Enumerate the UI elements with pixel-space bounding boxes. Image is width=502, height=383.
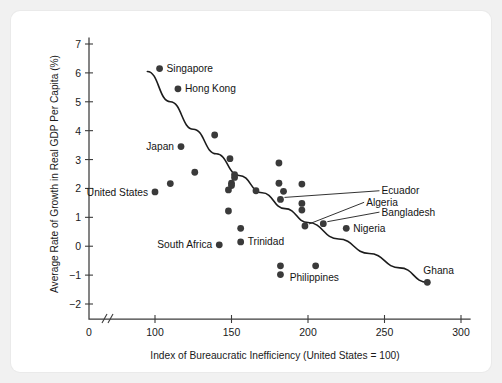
point-label: Philippines [290,272,339,283]
data-point-ecuador [277,196,284,203]
y-tick-label: 5 [75,96,81,108]
chart-canvas: 76543210−1−20100150200250300 SingaporeHo… [11,11,491,372]
data-point [276,160,283,167]
y-tick-label: 2 [75,182,81,194]
data-point [277,262,284,269]
point-label: South Africa [157,239,212,250]
figure-card: 76543210−1−20100150200250300 SingaporeHo… [11,11,491,372]
point-label: Japan [146,141,174,152]
point-label: Singapore [167,63,214,74]
x-tick-label: 100 [146,326,164,338]
x-axis-title: Index of Bureaucratic Inefficiency (Unit… [150,350,399,361]
data-point-hong-kong [175,85,182,92]
point-label: United States [87,187,148,198]
y-tick-label: 6 [75,67,81,79]
data-point-trinidad [237,238,244,245]
y-tick-label: 1 [75,211,81,223]
data-point [237,225,244,232]
data-point [191,169,198,176]
data-point [298,200,305,207]
x-tick-label: 0 [86,326,92,338]
x-tick-label: 200 [299,326,317,338]
leader-line [309,202,364,224]
trend-curve [147,71,427,282]
y-axis-title: Average Rate of Growth in Real GDP Per C… [49,55,60,293]
data-point-algeria [302,223,309,230]
y-tick-label: −2 [69,298,81,310]
y-tick-label: 7 [75,38,81,50]
data-point-nigeria [343,225,350,232]
point-label: Hong Kong [185,83,236,94]
point-labels: SingaporeHong KongJapanUnited StatesSout… [87,63,454,283]
data-point [225,186,232,193]
point-label: Ghana [423,265,454,276]
data-point [276,180,283,187]
data-point [280,188,287,195]
data-point-philippines [312,262,319,269]
data-point [167,180,174,187]
x-tick-label: 150 [223,326,241,338]
data-point-united-states [152,189,159,196]
data-point-south-africa [216,241,223,248]
scatter-plot: 76543210−1−20100150200250300 SingaporeHo… [11,11,491,372]
axis-titles: Index of Bureaucratic Inefficiency (Unit… [49,55,400,361]
data-point [253,187,260,194]
data-point-ghana [424,279,431,286]
data-point [231,174,238,181]
data-point-singapore [156,65,163,72]
data-point [211,132,218,139]
data-point-japan [178,143,185,150]
y-tick-label: −1 [69,269,81,281]
y-tick-label: 3 [75,154,81,166]
data-point-bangladesh [320,220,327,227]
x-tick-label: 250 [376,326,394,338]
trend-curve-path [147,71,427,282]
point-label: Ecuador [381,185,420,196]
data-point [227,155,234,162]
data-point [225,208,232,215]
data-point [298,181,305,188]
point-label: Trinidad [248,236,285,247]
data-point [277,271,284,278]
x-tick-label: 300 [452,326,470,338]
y-tick-label: 4 [75,125,81,137]
point-label: Nigeria [353,223,386,234]
data-point [298,207,305,214]
data-points [152,65,431,286]
point-label: Bangladesh [381,207,435,218]
y-tick-label: 0 [75,240,81,252]
